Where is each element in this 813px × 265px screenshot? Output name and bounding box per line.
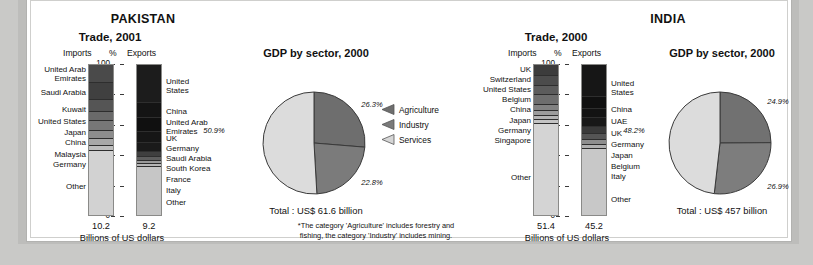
gdp-total-label: Total : US$ 457 billion — [632, 205, 812, 216]
trade-chart-title: Trade, 2001 — [45, 31, 175, 43]
bar-segment-label-exports-4: Germany — [166, 145, 276, 154]
bar-segment-imports-8 — [534, 124, 558, 216]
bar-segment-imports-1 — [534, 76, 558, 86]
gdp-total-label: Total : US$ 61.6 billion — [226, 205, 406, 216]
legend-item-industry: Industry — [381, 119, 429, 130]
bar-segment-exports-2 — [137, 118, 161, 132]
gdp-chart-title: GDP by sector, 2000 — [632, 47, 812, 59]
bar-segment-exports-0 — [582, 65, 606, 97]
bar-segment-label-line: Singapore — [421, 137, 531, 146]
bar-segment-label-line: France — [166, 176, 276, 185]
triangle-left-icon — [381, 119, 395, 130]
bar-segment-label-line: Malaysia — [0, 151, 86, 160]
axis-tick-mark-right-20 — [565, 186, 569, 187]
bar-segment-label-line: Japan — [0, 129, 86, 138]
bar-segment-label-imports-0: UK — [421, 66, 531, 75]
legend-item-label: Services — [399, 135, 431, 145]
trade-bar-imports — [88, 64, 114, 216]
bar-segment-label-imports-6: Germany — [421, 127, 531, 136]
legend-item-label: Agriculture — [399, 105, 439, 115]
bar-segment-label-line: UK — [166, 135, 276, 144]
bar-segment-label-imports-7: Singapore — [421, 137, 531, 146]
trade-units-label: Billions of US dollars — [497, 233, 637, 243]
trade-units-label: Billions of US dollars — [52, 233, 192, 243]
bar-segment-imports-3 — [89, 112, 113, 121]
pie-slice-services — [263, 92, 317, 194]
axis-tick-mark-left-0 — [556, 216, 560, 217]
bar-segment-imports-8 — [89, 151, 113, 216]
country-title-pakistan: PAKISTAN — [73, 12, 213, 26]
bar-segment-label-imports-2: Kuwait — [0, 106, 86, 115]
pie-slice-percent-industry: 22.8% — [352, 178, 392, 187]
bar-segment-label-exports-1: China — [166, 108, 276, 117]
bar-segment-imports-3 — [534, 95, 558, 104]
bar-segment-label-imports-7: Germany — [0, 161, 86, 170]
bar-segment-imports-5 — [89, 131, 113, 139]
bar-segment-imports-1 — [89, 83, 113, 100]
trade-bar-exports — [581, 64, 607, 216]
axis-tick-mark-right-80 — [120, 94, 124, 95]
bar-segment-label-exports-7: France — [166, 176, 276, 185]
bar-segment-label-line: Germany — [166, 145, 276, 154]
imports-column-header: Imports — [508, 48, 537, 58]
axis-tick-mark-right-60 — [565, 125, 569, 126]
bar-segment-label-imports-0: United ArabEmirates — [0, 66, 86, 83]
axis-tick-mark-right-40 — [120, 155, 124, 156]
bar-segment-imports-4 — [89, 121, 113, 131]
trade-chart-title: Trade, 2000 — [491, 31, 621, 43]
trade-bar-imports — [533, 64, 559, 216]
bar-segment-label-line: Emirates — [0, 75, 86, 84]
imports-column-header: Imports — [63, 48, 92, 58]
percent-column-header: % — [554, 48, 562, 58]
bar-segment-exports-3 — [137, 132, 161, 143]
axis-tick-mark-right-0 — [120, 216, 124, 217]
bar-segment-label-line: United States — [0, 118, 86, 127]
bar-segment-label-line: Italy — [166, 187, 276, 196]
bar-segment-label-exports-3: UK — [166, 135, 276, 144]
axis-tick-mark-right-40 — [565, 155, 569, 156]
bar-segment-exports-1 — [137, 103, 161, 118]
bar-segment-label-imports-2: United States — [421, 86, 531, 95]
bar-segment-label-line: United States — [421, 86, 531, 95]
bar-segment-label-line: Germany — [0, 161, 86, 170]
bar-segment-label-imports-8: Other — [0, 183, 86, 192]
axis-tick-mark-right-60 — [120, 125, 124, 126]
axis-tick-mark-right-100 — [120, 64, 124, 65]
bar-segment-label-imports-5: China — [0, 139, 86, 148]
bar-segment-exports-3 — [582, 118, 606, 126]
bar-segment-imports-2 — [534, 86, 558, 96]
legend-item-agriculture: Agriculture — [381, 104, 439, 115]
bar-segment-exports-2 — [582, 109, 606, 118]
bar-segment-label-line: Switzerland — [421, 76, 531, 85]
axis-tick-mark-right-0 — [565, 216, 569, 217]
bar-segment-label-exports-8: Other — [611, 196, 721, 205]
bar-segment-exports-4 — [137, 143, 161, 152]
bar-segment-label-line: Other — [0, 183, 86, 192]
bar-segment-label-line: Other — [421, 174, 531, 183]
pie-slice-services — [669, 92, 720, 194]
bar-segment-label-imports-6: Malaysia — [0, 151, 86, 160]
bar-segment-label-line: Japan — [421, 117, 531, 126]
bar-segment-label-line: China — [0, 139, 86, 148]
bar-segment-label-imports-1: Saudi Arabia — [0, 89, 86, 98]
bar-segment-label-line: Saudi Arabia — [166, 155, 276, 164]
bar-segment-label-imports-4: Japan — [0, 129, 86, 138]
bar-segment-label-line: Saudi Arabia — [0, 89, 86, 98]
bar-segment-exports-4 — [582, 127, 606, 135]
pie-slice-percent-services: 50.9% — [194, 126, 234, 135]
bar-segment-label-imports-3: United States — [0, 118, 86, 127]
triangle-left-icon — [381, 134, 395, 145]
axis-tick-mark-right-20 — [120, 186, 124, 187]
legend-item-services: Services — [381, 134, 431, 145]
bar-segment-label-imports-5: Japan — [421, 117, 531, 126]
percent-column-header: % — [109, 48, 117, 58]
infographic-canvas: PAKISTANTrade, 2001Imports%Exports100806… — [0, 0, 813, 265]
bar-segment-label-exports-0: UnitedStates — [166, 78, 276, 95]
country-title-india: INDIA — [598, 12, 738, 26]
bar-segment-label-line: Other — [611, 196, 721, 205]
exports-column-header: Exports — [127, 48, 156, 58]
bar-segment-label-line: States — [166, 87, 276, 96]
bar-segment-label-imports-8: Other — [421, 174, 531, 183]
bar-segment-exports-8 — [582, 149, 606, 216]
axis-tick-mark-right-80 — [565, 94, 569, 95]
